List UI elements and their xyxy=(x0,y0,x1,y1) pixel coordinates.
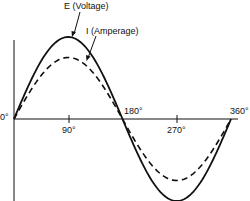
current-label: I (Amperage) xyxy=(86,27,139,36)
voltage-arrow xyxy=(74,12,80,34)
voltage-arrowhead xyxy=(72,31,77,37)
sine-wave-diagram: E (Voltage) I (Amperage) 0° 90° 180° 270… xyxy=(0,0,250,201)
tick-label-180: 180° xyxy=(124,107,143,116)
tick-label-360: 360° xyxy=(230,107,249,116)
voltage-label: E (Voltage) xyxy=(64,2,109,11)
tick-label-270: 270° xyxy=(167,126,186,135)
tick-label-90: 90° xyxy=(62,126,76,135)
tick-label-0: 0° xyxy=(0,113,9,122)
current-arrowhead xyxy=(86,55,91,61)
